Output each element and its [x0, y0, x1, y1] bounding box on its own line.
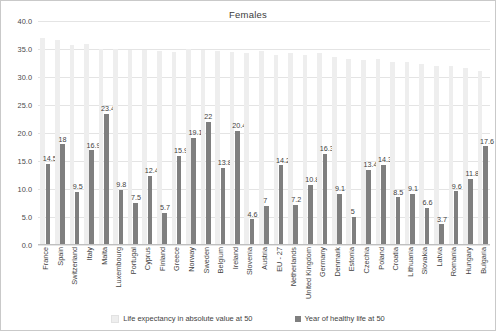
x-axis-cell: Switzerland: [67, 247, 82, 309]
bar-healthy-life[interactable]: [410, 194, 415, 245]
bar-life-expectancy[interactable]: [390, 62, 395, 245]
bar-healthy-life[interactable]: [454, 191, 459, 245]
bar-life-expectancy[interactable]: [128, 50, 133, 245]
bar-life-expectancy[interactable]: [449, 66, 454, 245]
x-axis-cell: Italy: [82, 247, 97, 309]
bar-group[interactable]: 18: [53, 21, 68, 245]
bar-healthy-life[interactable]: [308, 185, 313, 245]
bar-life-expectancy[interactable]: [463, 68, 468, 245]
bar-group[interactable]: 10.8: [300, 21, 315, 245]
bar-healthy-life[interactable]: [221, 168, 226, 245]
bar-healthy-life[interactable]: [425, 208, 430, 245]
bar-group[interactable]: 5.7: [155, 21, 170, 245]
bar-group[interactable]: 9.1: [330, 21, 345, 245]
bar-value-label: 17.6: [480, 138, 494, 145]
bar-healthy-life[interactable]: [133, 203, 138, 245]
bar-group[interactable]: 5: [344, 21, 359, 245]
bar-healthy-life[interactable]: [235, 131, 240, 245]
bar-group[interactable]: 14.2: [271, 21, 286, 245]
bar-healthy-life[interactable]: [104, 114, 109, 245]
bar-healthy-life[interactable]: [293, 205, 298, 245]
bar-healthy-life[interactable]: [60, 144, 65, 245]
bar-group[interactable]: 11.8: [461, 21, 476, 245]
bar-healthy-life[interactable]: [396, 197, 401, 245]
bar-healthy-life[interactable]: [119, 190, 124, 245]
x-axis-tick-label: Poland: [376, 247, 385, 270]
bar-life-expectancy[interactable]: [419, 64, 424, 245]
bar-group[interactable]: 20.4: [228, 21, 243, 245]
legend-item-life-expectancy[interactable]: Life expectancy in absolute value at 50: [111, 314, 252, 323]
bar-life-expectancy[interactable]: [113, 49, 118, 245]
legend-item-healthy-life[interactable]: Year of healthy life at 50: [295, 314, 385, 323]
bar-life-expectancy[interactable]: [405, 62, 410, 245]
bar-life-expectancy[interactable]: [332, 57, 337, 245]
bar-group[interactable]: 9.5: [67, 21, 82, 245]
legend-swatch-icon-light: [111, 315, 119, 323]
bar-healthy-life[interactable]: [366, 170, 371, 245]
bar-group[interactable]: 4.6: [242, 21, 257, 245]
bar-life-expectancy[interactable]: [186, 49, 191, 245]
bar-healthy-life[interactable]: [162, 213, 167, 245]
bar-group[interactable]: 7.5: [125, 21, 140, 245]
bar-life-expectancy[interactable]: [230, 52, 235, 245]
x-axis-cell: Norway: [184, 247, 199, 309]
bar-life-expectancy[interactable]: [201, 50, 206, 245]
bar-group[interactable]: 3.7: [432, 21, 447, 245]
bar-healthy-life[interactable]: [439, 224, 444, 245]
bar-life-expectancy[interactable]: [70, 45, 75, 245]
bar-healthy-life[interactable]: [264, 206, 269, 245]
bar-healthy-life[interactable]: [191, 138, 196, 245]
bar-healthy-life[interactable]: [381, 165, 386, 245]
bar-group[interactable]: 22: [198, 21, 213, 245]
bar-group[interactable]: 7.2: [286, 21, 301, 245]
bar-group[interactable]: 17.6: [475, 21, 490, 245]
bar-life-expectancy[interactable]: [361, 60, 366, 245]
bar-group[interactable]: 7: [257, 21, 272, 245]
bar-life-expectancy[interactable]: [259, 51, 264, 245]
bar-group[interactable]: 15.9: [169, 21, 184, 245]
bar-life-expectancy[interactable]: [376, 59, 381, 245]
x-axis-tick-label: Hungary: [464, 247, 473, 275]
bar-life-expectancy[interactable]: [142, 50, 147, 245]
bar-group[interactable]: 14.3: [373, 21, 388, 245]
bar-life-expectancy[interactable]: [303, 55, 308, 245]
bar-group[interactable]: 8.5: [388, 21, 403, 245]
bar-healthy-life[interactable]: [89, 150, 94, 245]
bar-healthy-life[interactable]: [75, 192, 80, 245]
bar-healthy-life[interactable]: [468, 179, 473, 245]
bar-group[interactable]: 14.5: [38, 21, 53, 245]
bar-group[interactable]: 9.8: [111, 21, 126, 245]
bar-group[interactable]: 16.9: [82, 21, 97, 245]
bar-group[interactable]: 19.1: [184, 21, 199, 245]
bar-group[interactable]: 13.4: [359, 21, 374, 245]
bar-healthy-life[interactable]: [46, 164, 51, 245]
bar-healthy-life[interactable]: [352, 217, 357, 245]
bar-group[interactable]: 23.4: [96, 21, 111, 245]
bar-life-expectancy[interactable]: [40, 38, 45, 245]
bar-life-expectancy[interactable]: [288, 53, 293, 245]
bar-healthy-life[interactable]: [279, 165, 284, 245]
bar-life-expectancy[interactable]: [157, 51, 162, 245]
bar-healthy-life[interactable]: [250, 219, 255, 245]
bar-healthy-life[interactable]: [483, 146, 488, 245]
x-axis-cell: Hungary: [461, 247, 476, 309]
bar-healthy-life[interactable]: [177, 156, 182, 245]
bar-group[interactable]: 12.4: [140, 21, 155, 245]
bar-healthy-life[interactable]: [148, 176, 153, 245]
bar-life-expectancy[interactable]: [99, 49, 104, 245]
bar-group[interactable]: 9.6: [446, 21, 461, 245]
bar-life-expectancy[interactable]: [346, 59, 351, 245]
y-axis-tick-label: 20.0: [18, 129, 32, 138]
bar-life-expectancy[interactable]: [215, 51, 220, 245]
x-axis-cell: Cyprus: [140, 247, 155, 309]
bar-group[interactable]: 9.1: [402, 21, 417, 245]
bar-healthy-life[interactable]: [323, 154, 328, 245]
x-axis-cell: Spain: [53, 247, 68, 309]
bar-group[interactable]: 13.8: [213, 21, 228, 245]
bar-life-expectancy[interactable]: [274, 55, 279, 245]
bar-healthy-life[interactable]: [337, 194, 342, 245]
bar-group[interactable]: 16.3: [315, 21, 330, 245]
bar-group[interactable]: 6.6: [417, 21, 432, 245]
bar-healthy-life[interactable]: [206, 122, 211, 245]
bar-life-expectancy[interactable]: [478, 71, 483, 245]
